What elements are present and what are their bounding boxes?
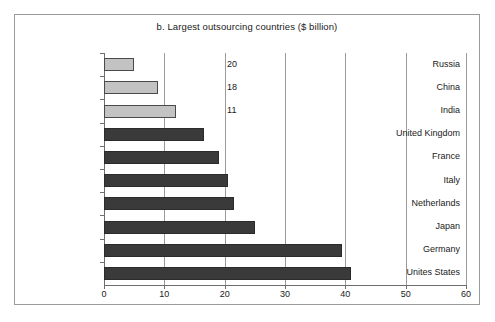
category-label: Japan [435,221,460,231]
bar [104,151,219,164]
bar [104,244,342,257]
value-annotation: 11 [227,105,236,115]
gridline-50 [406,53,407,285]
category-label: France [432,151,460,161]
y-tick [100,146,104,147]
y-tick [100,99,104,100]
y-tick [100,123,104,124]
category-label: Italy [443,175,460,185]
x-tick-label-30: 30 [280,289,290,299]
x-tick-label-40: 40 [340,289,350,299]
bar [104,105,176,118]
x-tick-label-60: 60 [461,289,471,299]
bar [104,221,255,234]
x-tick-label-20: 20 [220,289,230,299]
category-label: China [436,82,460,92]
gridline-40 [345,53,346,285]
bar [104,174,228,187]
y-tick [100,192,104,193]
category-label: Russia [432,59,460,69]
value-annotation: 20 [227,59,237,69]
bar [104,58,134,71]
bar [104,197,234,210]
category-label: Netherlands [411,198,460,208]
plot-area: 0102030405060 RussiaChinaIndiaUnited Kin… [104,53,466,285]
y-tick [100,262,104,263]
y-tick [100,215,104,216]
gridline-60 [466,53,467,285]
y-tick [100,53,104,54]
y-tick [100,239,104,240]
x-tick-label-0: 0 [101,289,106,299]
y-tick [100,76,104,77]
x-tick-label-10: 10 [159,289,169,299]
category-label: India [440,105,460,115]
value-annotation: 18 [227,82,237,92]
chart-title: b. Largest outsourcing countries ($ bill… [15,21,479,32]
bar [104,267,351,280]
bar [104,81,158,94]
bar [104,128,204,141]
category-label: Germany [423,244,460,254]
chart-figure: b. Largest outsourcing countries ($ bill… [14,14,480,305]
category-label: Unites States [406,267,460,277]
category-label: United Kingdom [396,128,460,138]
y-tick [100,169,104,170]
x-tick-label-50: 50 [401,289,411,299]
